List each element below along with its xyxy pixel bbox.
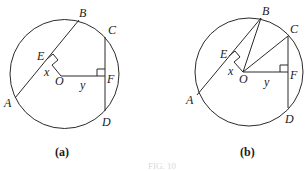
circle-a bbox=[10, 20, 119, 129]
point-label-e: E bbox=[36, 49, 45, 63]
diagram-canvas: B C E x O F y A D (a) B C E x O F y A D … bbox=[0, 0, 307, 171]
segment-label-y: y bbox=[263, 75, 270, 89]
point-label-a: A bbox=[3, 96, 12, 110]
point-label-d: D bbox=[101, 115, 111, 129]
right-angle-marker-e-b bbox=[229, 51, 240, 62]
point-label-c: C bbox=[290, 22, 299, 36]
right-angle-marker-f-b bbox=[280, 65, 288, 72]
segment-label-x: x bbox=[227, 64, 234, 78]
point-label-d: D bbox=[284, 112, 294, 126]
point-label-o: O bbox=[239, 72, 248, 86]
point-label-a: A bbox=[185, 93, 194, 107]
radius-oc-b bbox=[243, 36, 288, 72]
right-angle-marker-e-a bbox=[47, 54, 58, 65]
segment-label-x: x bbox=[43, 65, 50, 79]
point-label-c: C bbox=[108, 23, 117, 37]
point-label-b: B bbox=[79, 6, 87, 20]
point-label-f: F bbox=[289, 68, 298, 82]
chord-ab-b bbox=[197, 18, 261, 95]
figure-b: B C E x O F y A D (b) bbox=[185, 4, 303, 159]
radius-ob-b bbox=[243, 18, 261, 72]
point-label-b: B bbox=[262, 4, 270, 18]
footer-figure-label: FIG. 10 bbox=[148, 161, 177, 171]
caption-a: (a) bbox=[55, 145, 69, 159]
right-angle-marker-f-a bbox=[97, 69, 105, 76]
segment-oe-b bbox=[234, 62, 243, 72]
segment-label-y: y bbox=[79, 78, 86, 92]
caption-b: (b) bbox=[240, 145, 255, 159]
figure-a: B C E x O F y A D (a) bbox=[3, 6, 119, 159]
point-label-e: E bbox=[219, 47, 228, 61]
point-label-f: F bbox=[106, 72, 115, 86]
point-label-o: O bbox=[55, 74, 64, 88]
